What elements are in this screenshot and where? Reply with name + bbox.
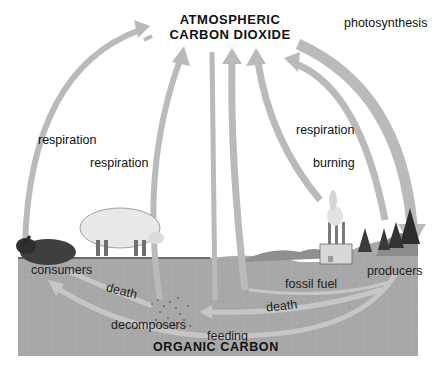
- burning-label: burning: [313, 157, 355, 170]
- factory-illustration: [320, 190, 352, 264]
- consumers-illustration: [16, 208, 164, 265]
- organic-carbon-label: ORGANIC CARBON: [153, 340, 279, 354]
- respiration-consumers-label: respiration: [38, 134, 96, 147]
- decomposers-label: decomposers: [111, 319, 186, 332]
- producers-illustration: [358, 208, 420, 256]
- sheep-body: [80, 208, 160, 248]
- title-line-1: ATMOSPHERIC: [160, 12, 300, 27]
- diagram-artwork: [0, 0, 438, 366]
- producers-label: producers: [367, 265, 423, 278]
- title-line-2: CARBON DIOXIDE: [160, 27, 300, 42]
- respiration-producers-label: respiration: [296, 124, 354, 137]
- fossil-fuel-label: fossil fuel: [285, 278, 337, 291]
- carbon-cycle-diagram: ATMOSPHERIC CARBON DIOXIDE photosynthesi…: [0, 0, 438, 366]
- arrowhead-icon: [134, 20, 150, 38]
- consumers-label: consumers: [31, 264, 92, 277]
- photosynthesis-label: photosynthesis: [344, 17, 427, 30]
- death-producers-label: death: [265, 298, 297, 314]
- atmospheric-carbon-dioxide-label: ATMOSPHERIC CARBON DIOXIDE: [160, 12, 300, 42]
- respiration-decomposers-label: respiration: [90, 157, 148, 170]
